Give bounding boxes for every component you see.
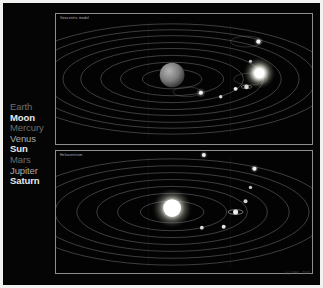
panel-geocentric: Geocentric model [55, 13, 313, 145]
legend-item-saturn: Saturn [10, 176, 54, 187]
panel-geocentric-label: Geocentric model [60, 16, 89, 21]
sun-body [244, 57, 276, 89]
legend-item-mars: Mars [10, 155, 54, 166]
legend-item-earth: Earth [10, 102, 54, 113]
earth-center-body [160, 63, 185, 88]
panel-heliocentric-label: Heliocentrism [60, 153, 83, 158]
body-legend: Earth Moon Mercury Venus Sun Mars Jupite… [10, 102, 54, 187]
geocentric-svg [56, 14, 312, 144]
panel-heliocentric: Heliocentrism [55, 150, 313, 274]
sun-center-body [152, 188, 192, 227]
astronomy-models-figure: Earth Moon Mercury Venus Sun Mars Jupite… [0, 0, 323, 288]
heliocentric-diagram [56, 151, 312, 273]
credit-text: (c) 1994 - 2003 [285, 271, 310, 275]
heliocentric-svg [56, 151, 312, 273]
geocentric-diagram [56, 14, 312, 144]
